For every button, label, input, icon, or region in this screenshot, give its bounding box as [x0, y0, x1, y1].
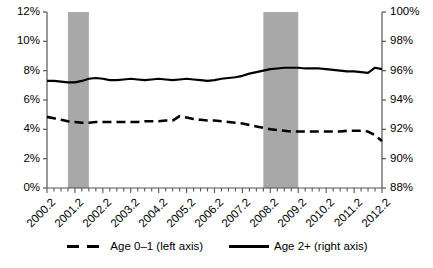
shaded-band-recession-2001: [68, 12, 89, 188]
dashed-line-icon: [65, 241, 105, 251]
left-axis-tick-label: 8%: [0, 64, 40, 76]
left-axis-tick-label: 10%: [0, 34, 40, 46]
left-axis-tick-label: 2%: [0, 152, 40, 164]
right-axis-tick-label: 94%: [390, 93, 433, 105]
left-axis-tick-label: 12%: [0, 5, 40, 17]
right-axis-tick-label: 100%: [390, 5, 433, 17]
solid-line-icon: [229, 241, 269, 251]
chart-legend: Age 0–1 (left axis)Age 2+ (right axis): [0, 240, 433, 252]
shaded-band-recession-2008: [263, 12, 298, 188]
right-axis-tick-label: 98%: [390, 34, 433, 46]
left-axis-tick-label: 4%: [0, 122, 40, 134]
chart-series-lines: [47, 68, 382, 141]
legend-label: Age 0–1 (left axis): [110, 240, 203, 252]
legend-entry-age-0-1[interactable]: Age 0–1 (left axis): [65, 240, 203, 252]
chart-container: 0%2%4%6%8%10%12% 88%90%92%94%96%98%100% …: [0, 0, 433, 268]
right-axis-tick-label: 90%: [390, 152, 433, 164]
chart-tick-marks: [43, 12, 386, 193]
series-line-age-0-1: [47, 116, 382, 141]
series-line-age-2plus: [47, 68, 382, 83]
left-axis-tick-label: 0%: [0, 181, 40, 193]
legend-entry-age-2plus[interactable]: Age 2+ (right axis): [229, 240, 368, 252]
chart-axes: [47, 12, 382, 188]
right-axis-tick-label: 88%: [390, 181, 433, 193]
right-axis-tick-label: 96%: [390, 64, 433, 76]
left-axis-tick-label: 6%: [0, 93, 40, 105]
recession-shaded-bands: [68, 12, 298, 188]
legend-label: Age 2+ (right axis): [274, 240, 368, 252]
right-axis-tick-label: 92%: [390, 122, 433, 134]
